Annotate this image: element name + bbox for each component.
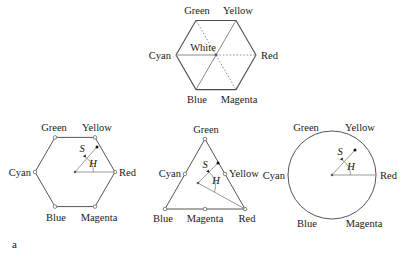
hs-hex-vertex-green	[53, 136, 57, 140]
hue-saturation-circle-group: S H Green Yellow Cyan Red Blue Magenta	[263, 122, 398, 229]
hs-hex-label-saturation: S	[79, 143, 85, 154]
hs-circle-hue-arrowhead	[340, 158, 343, 161]
hs-circle-label-magenta: Magenta	[346, 218, 383, 229]
hs-hex-vertex-yellow	[93, 136, 97, 140]
hs-circle-label-cyan: Cyan	[263, 170, 286, 181]
hs-circle-sample-point	[354, 149, 357, 152]
hs-hex-label-cyan: Cyan	[9, 167, 32, 178]
hs-hex-label-yellow: Yellow	[82, 122, 112, 133]
hs-tri-label-cyan: Cyan	[159, 168, 182, 179]
rgb-label-red: Red	[261, 50, 279, 61]
hs-hex-vertex-magenta	[93, 205, 97, 209]
rgb-label-blue: Blue	[187, 94, 207, 105]
hs-circle-center-dot	[331, 174, 334, 177]
hs-tri-label-yellow: Yellow	[229, 168, 259, 179]
rgb-spoke-magenta	[216, 55, 236, 90]
hs-tri-center-dot	[197, 182, 200, 185]
hs-circle-label-blue: Blue	[297, 218, 317, 229]
rgb-spoke-blue	[196, 55, 216, 90]
hs-hex-center-dot	[74, 171, 77, 174]
rgb-label-cyan: Cyan	[149, 50, 172, 61]
hs-hex-label-magenta: Magenta	[81, 212, 118, 223]
hs-hex-label-green: Green	[41, 122, 67, 133]
color-model-figure: Green Yellow Red Magenta Blue Cyan White	[0, 0, 405, 258]
hs-circle-label-saturation: S	[337, 146, 343, 157]
hs-tri-mid-magenta	[203, 207, 207, 211]
hs-tri-label-blue: Blue	[153, 213, 173, 224]
hs-hex-label-hue: H	[88, 158, 98, 169]
hs-tri-mid-cyan	[183, 172, 187, 176]
hs-hex-vertex-blue	[53, 205, 57, 209]
hue-saturation-triangle-group: S H Green Cyan Yellow Blue Magenta Red	[153, 124, 259, 224]
hs-tri-label-magenta: Magenta	[187, 213, 224, 224]
hs-circle-label-red: Red	[380, 170, 398, 181]
rgb-spoke-yellow	[216, 20, 236, 55]
hs-tri-label-hue: H	[211, 175, 221, 186]
rgb-hexagon-center-dot	[215, 54, 218, 57]
hs-circle-label-yellow: Yellow	[345, 122, 375, 133]
hue-saturation-hexagon-group: S H Green Yellow Red Magenta Blue Cyan	[9, 122, 137, 223]
rgb-label-yellow: Yellow	[223, 5, 253, 16]
hs-hex-hue-arrowhead	[83, 155, 86, 158]
hs-hex-label-red: Red	[119, 167, 137, 178]
rgb-label-magenta: Magenta	[221, 94, 258, 105]
hs-hex-vertex-cyan	[33, 170, 37, 174]
hs-tri-label-red: Red	[239, 213, 257, 224]
hs-tri-label-saturation: S	[202, 159, 208, 170]
hs-tri-vertex-green	[203, 137, 207, 141]
figure-panel-tag: a	[12, 238, 17, 250]
hs-circle-label-green: Green	[293, 122, 319, 133]
hs-hex-label-blue: Blue	[46, 212, 66, 223]
hs-circle-label-hue: H	[346, 161, 356, 172]
rgb-label-green: Green	[184, 5, 210, 16]
hs-hex-sample-point	[96, 146, 99, 149]
figure-canvas: Green Yellow Red Magenta Blue Cyan White	[0, 0, 405, 258]
hs-tri-mid-yellow	[223, 172, 227, 176]
hs-tri-vertex-blue	[163, 207, 167, 211]
hs-tri-sample-point	[217, 162, 220, 165]
hs-tri-label-green: Green	[193, 124, 219, 135]
rgb-label-white: White	[190, 42, 216, 53]
rgb-color-hexagon-group: Green Yellow Red Magenta Blue Cyan White	[149, 5, 279, 105]
